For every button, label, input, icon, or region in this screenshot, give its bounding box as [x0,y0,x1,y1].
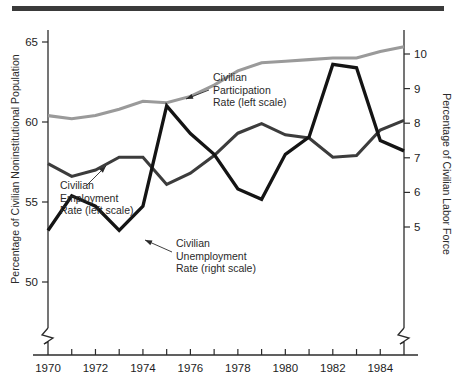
employment-annotation-line: Rate (left scale) [60,204,134,216]
x-axis-tick-label: 1972 [83,362,109,374]
x-axis-tick-label: 1978 [225,362,251,374]
labor-statistics-line-chart: CivilianParticipationRate (left scale)Ci… [0,0,456,383]
y-axis-tick-label: 60 [25,116,38,128]
x-axis-tick-label: 1974 [130,362,156,374]
participation-annotation-line: Rate (left scale) [213,96,287,108]
y2-axis-tick-label: 6 [414,186,420,198]
y-axis-tick-label: 50 [25,276,38,288]
chart-figure: CivilianParticipationRate (left scale)Ci… [0,0,456,383]
x-axis-tick-label: 1976 [178,362,204,374]
participation-annotation: CivilianParticipationRate (left scale) [186,71,287,108]
x-axis-tick-label: 1970 [35,362,61,374]
participation-annotation-line: Participation [213,84,271,96]
unemployment-annotation-arrowhead [145,240,152,245]
employment-annotation: CivilianEmploymentRate (left scale) [60,166,134,216]
right-axis-lower-stub [400,342,404,355]
employment-annotation-line: Civilian [60,179,94,191]
left-axis-lower-stub [44,342,48,355]
unemployment-annotation-line: Rate (right scale) [176,262,256,274]
participation-annotation-line: Civilian [213,71,247,83]
y-axis-tick-label: 65 [25,36,38,48]
y2-axis-tick-label: 10 [414,48,427,60]
x-axis-tick-label: 1984 [367,362,393,374]
y2-axis-tick-label: 8 [414,117,420,129]
unemployment-annotation-line: Unemployment [176,250,247,262]
x-axis-tick-label: 1982 [320,362,346,374]
employment-annotation-line: Employment [60,192,118,204]
y-axis-tick-label: 55 [25,196,38,208]
y2-axis-tick-label: 7 [414,152,420,164]
x-axis-tick-label: 1980 [273,362,299,374]
y2-axis-tick-label: 9 [414,83,420,95]
top-rule-divider [12,6,444,11]
left-axis-title: Percentage of Civilian Noninstitutional … [9,54,21,284]
unemployment-annotation-line: Civilian [176,237,210,249]
y2-axis-tick-label: 5 [414,221,420,233]
series-line-civilian-employment-rate [48,120,404,184]
right-axis-title: Percentage of Civilian Labor Force [441,93,453,255]
unemployment-annotation: CivilianUnemploymentRate (right scale) [145,237,256,274]
